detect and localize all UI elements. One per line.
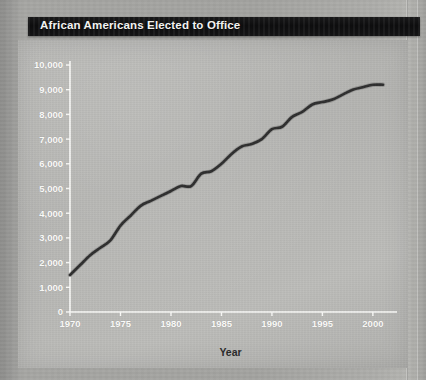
x-axis-title: Year bbox=[219, 346, 241, 358]
y-axis-tick-label: 4,000 bbox=[39, 208, 63, 219]
y-axis-tick-label: 5,000 bbox=[39, 183, 63, 194]
y-axis-tick-label: 1,000 bbox=[39, 282, 63, 293]
x-axis-tick-label: 1980 bbox=[160, 318, 181, 329]
y-axis-tick-label: 10,000 bbox=[34, 59, 63, 70]
y-axis: 01,0002,0003,0004,0005,0006,0007,0008,00… bbox=[34, 59, 70, 317]
chart-title-banner: African Americans Elected to Office bbox=[28, 17, 420, 36]
x-axis-tick-label: 1995 bbox=[312, 318, 334, 329]
x-axis-tick-label: 1970 bbox=[59, 318, 80, 329]
series-line bbox=[70, 85, 383, 275]
y-axis-tick-label: 2,000 bbox=[39, 257, 63, 268]
page-edge-rule-secondary bbox=[417, 0, 418, 380]
x-axis-tick-label: 1985 bbox=[211, 318, 233, 329]
series-line-shadow bbox=[70, 85, 383, 275]
x-axis-tick-label: 1975 bbox=[110, 318, 132, 329]
data-series-line bbox=[70, 85, 383, 275]
x-axis: 1970197519801985199019952000 bbox=[59, 312, 397, 329]
x-axis-tick-label: 2000 bbox=[362, 318, 383, 329]
line-chart: 01,0002,0003,0004,0005,0006,0007,0008,00… bbox=[18, 40, 408, 368]
x-axis-tick-label: 1990 bbox=[261, 318, 282, 329]
y-axis-tick-label: 0 bbox=[58, 306, 63, 317]
y-axis-tick-label: 8,000 bbox=[39, 109, 63, 120]
y-axis-tick-label: 7,000 bbox=[39, 134, 63, 145]
y-axis-tick-label: 6,000 bbox=[39, 158, 63, 169]
chart-panel: 01,0002,0003,0004,0005,0006,0007,0008,00… bbox=[18, 40, 408, 368]
y-axis-tick-label: 3,000 bbox=[39, 232, 63, 243]
y-axis-tick-label: 9,000 bbox=[39, 84, 63, 95]
page-title: African Americans Elected to Office bbox=[40, 19, 240, 31]
